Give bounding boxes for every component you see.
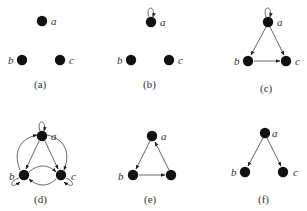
node-label-a: a [51,15,57,27]
node-label-b: b [9,170,15,182]
edge-a-c [270,27,284,55]
node-b [243,56,253,66]
relation-digraphs-figure: a b c (a) a b c (b) a b c (c) [0,0,307,211]
edge-a-b [248,138,263,166]
panel-a: a b c (a) [8,15,74,91]
node-c [278,167,288,177]
node-c [281,56,291,66]
node-c [56,170,66,180]
panel-caption-a: (a) [34,78,47,91]
edge-loop-a [265,8,270,17]
node-b [128,170,138,180]
node-label-a: a [160,16,166,28]
panel-caption-c: (c) [260,82,273,95]
node-label-c: c [295,55,300,67]
node-label-c: c [293,166,298,178]
node-c [55,55,65,65]
node-label-a: a [161,130,167,142]
node-a [37,131,47,141]
panel-f: a b c (f) [231,127,298,206]
panel-e: a b (e) [118,130,176,206]
panel-c: a b c (c) [234,8,300,95]
edge-a-b [136,141,150,169]
node-b [19,170,29,180]
edge-a-c [267,138,281,166]
node-label-b: b [234,55,240,67]
edge-loop-a [39,122,44,131]
panel-caption-f: (f) [258,193,269,206]
node-c [164,55,174,65]
node-b [126,55,136,65]
edge-b-c [29,166,56,172]
node-label-a: a [51,130,57,142]
edge-a-b [251,27,266,55]
edge-a-c [45,141,58,169]
node-label-c: c [71,170,76,182]
panel-b: a b c (b) [117,8,183,91]
node-label-b: b [118,170,124,182]
node-label-b: b [117,54,123,66]
edge-c-b [29,179,56,185]
node-a [146,17,156,27]
node-b [17,55,27,65]
node-label-b: b [231,166,237,178]
node-a [260,128,270,138]
node-label-a: a [272,127,278,139]
node-a [147,131,157,141]
panel-d: a b c (d) [9,122,76,206]
node-label-c: c [178,54,183,66]
panel-caption-b: (b) [143,78,156,91]
panel-caption-e: (e) [144,193,157,206]
node-label-a: a [277,16,283,28]
node-b [240,167,250,177]
node-a [37,16,47,26]
node-a [263,17,273,27]
panel-caption-d: (d) [34,193,47,206]
node-c [166,170,176,180]
node-label-b: b [8,54,14,66]
edge-c-a [155,142,169,170]
node-label-c: c [69,54,74,66]
edge-loop-a [148,8,153,17]
edge-a-b [26,141,39,169]
